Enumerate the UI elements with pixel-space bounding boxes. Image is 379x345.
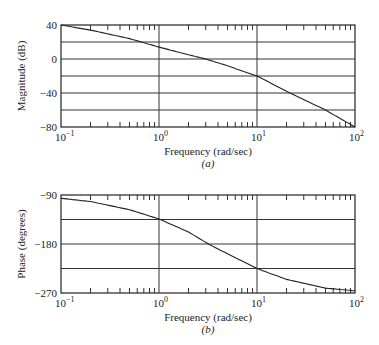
y-axis-label: Magnitude (dB): [15, 40, 28, 111]
x-tick-label: 101: [251, 295, 266, 309]
panel-caption: (a): [202, 157, 215, 170]
y-axis-label: Phase (degrees): [15, 209, 28, 279]
x-tick-label: 100: [153, 129, 168, 143]
phase-curve: [61, 198, 355, 290]
y-tick-label: −90: [40, 189, 58, 201]
x-tick-label: 100: [153, 295, 168, 309]
x-tick-label: 102: [349, 295, 364, 309]
x-tick-label: 10−1: [55, 129, 75, 143]
panel-caption: (b): [202, 323, 215, 336]
y-tick-label: 0: [52, 53, 58, 65]
y-tick-label: −180: [34, 238, 57, 250]
bode-plot: 400−40−8010−1100101102Frequency (rad/sec…: [0, 0, 379, 345]
y-tick-label: −270: [34, 287, 57, 299]
x-tick-label: 102: [349, 129, 364, 143]
y-tick-label: −40: [40, 87, 58, 99]
y-tick-label: 40: [46, 19, 58, 31]
phase-panel: −90−180−27010−1100101102Frequency (rad/s…: [15, 189, 364, 336]
magnitude-panel: 400−40−8010−1100101102Frequency (rad/sec…: [15, 19, 364, 170]
x-tick-label: 10−1: [55, 295, 75, 309]
x-tick-label: 101: [251, 129, 266, 143]
